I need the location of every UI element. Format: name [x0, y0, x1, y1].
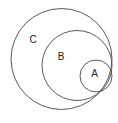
venn-diagram-container: C B A [0, 0, 118, 123]
set-label-a: A [91, 68, 98, 79]
set-circle-b [42, 31, 112, 101]
set-label-b: B [58, 51, 65, 62]
set-label-c: C [29, 34, 36, 45]
venn-diagram-svg: C B A [0, 0, 118, 123]
